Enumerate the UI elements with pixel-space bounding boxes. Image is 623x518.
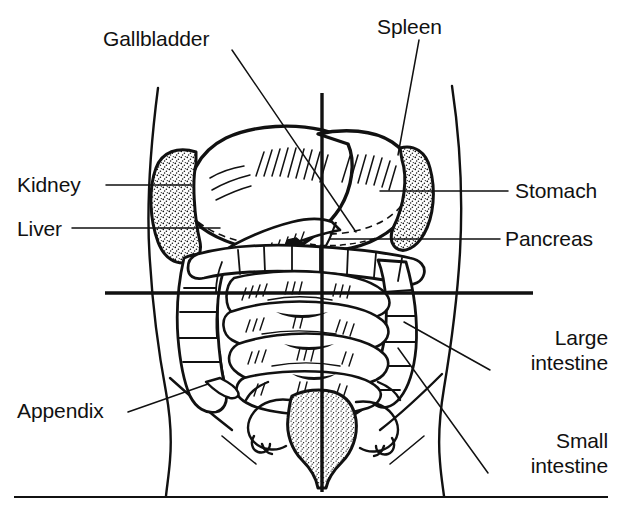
label-large-intestine: Large intestine: [493, 325, 608, 375]
kidney-left-shadow: [151, 150, 201, 263]
anatomy-figure: Gallbladder Spleen Kidney Liver Stomach …: [0, 0, 623, 518]
leader-small-intestine: [398, 348, 488, 473]
label-liver: Liver: [17, 216, 62, 241]
label-stomach: Stomach: [515, 178, 597, 203]
label-spleen: Spleen: [377, 14, 442, 39]
label-appendix: Appendix: [17, 398, 104, 423]
label-pancreas: Pancreas: [505, 226, 593, 251]
leader-spleen: [398, 40, 419, 155]
label-kidney: Kidney: [17, 172, 81, 197]
label-gallbladder: Gallbladder: [103, 26, 209, 51]
label-small-intestine: Small intestine: [493, 428, 608, 478]
